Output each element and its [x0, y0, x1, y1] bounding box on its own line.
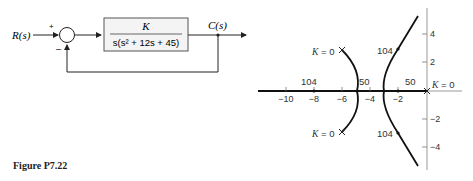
- figure-caption: Figure P7.22: [13, 160, 67, 171]
- label-gain-50-right: 50: [405, 76, 416, 87]
- output-label: C(s): [208, 19, 227, 32]
- label-gain-50-left: 50: [359, 76, 370, 87]
- label-k0-lower: K = 0: [311, 128, 334, 139]
- x-tick-label: −4: [365, 94, 375, 104]
- label-gain-104-real: 104: [301, 76, 317, 87]
- figure-canvas: R(s) + – K s(s² + 12s + 45) C(s) −10: [0, 0, 473, 181]
- gain-point-50-right: [396, 89, 399, 92]
- label-k0-origin: K = 0: [431, 79, 454, 90]
- label-gain-104-upper: 104: [377, 45, 393, 56]
- y-tick-label: 4: [430, 29, 435, 39]
- root-locus-plot: −10 −8 −6 −4 −2 4 2 −2 −4: [258, 8, 462, 170]
- pole-x-upper: [339, 47, 345, 53]
- y-tick-label: 2: [430, 57, 435, 67]
- summing-junction: [60, 28, 75, 43]
- x-tick-label: −8: [309, 94, 319, 104]
- gain-point-50-left: [355, 89, 358, 92]
- label-k0-upper: K = 0: [311, 46, 334, 57]
- sum-minus-sign: –: [56, 44, 61, 54]
- x-tick-label: −6: [337, 94, 347, 104]
- y-tick-label: −2: [430, 114, 440, 124]
- tf-numerator: K: [141, 20, 150, 32]
- gain-point-104-lower: [396, 131, 399, 134]
- x-tick-label: −2: [393, 94, 403, 104]
- tf-denominator: s(s² + 12s + 45): [113, 37, 180, 48]
- label-gain-104-lower: 104: [377, 128, 393, 139]
- x-tick-label: −10: [278, 94, 293, 104]
- sum-plus-sign: +: [49, 22, 54, 31]
- pole-x-lower: [339, 129, 345, 135]
- gain-point-104-real: [312, 89, 315, 92]
- block-diagram: R(s) + – K s(s² + 12s + 45) C(s): [11, 18, 246, 72]
- y-tick-label: −4: [430, 142, 440, 152]
- gain-point-104-upper: [396, 47, 399, 50]
- input-label: R(s): [11, 29, 31, 42]
